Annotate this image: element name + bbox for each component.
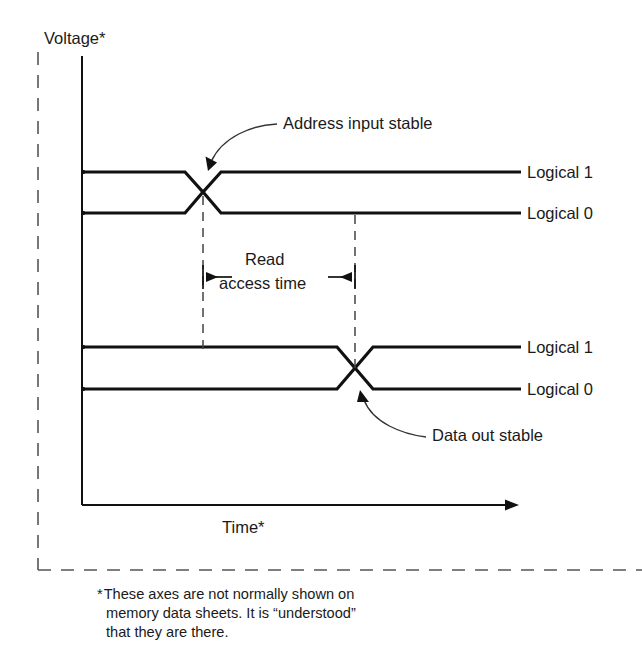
timing-diagram-canvas: Voltage* Time* Logical 1 Logical 0 Logic…	[0, 0, 642, 649]
data-out-high-trace	[82, 347, 521, 368]
timing-diagram-figure: Voltage* Time* Logical 1 Logical 0 Logic…	[0, 0, 642, 649]
data-out-logical-1-label: Logical 1	[527, 338, 593, 356]
read-access-time-label-line1: Read	[245, 250, 284, 268]
address-input-high-trace	[82, 172, 521, 192]
footnote-line-2: memory data sheets. It is “understood”	[106, 605, 356, 621]
data-out-stable-leader-line	[364, 400, 426, 437]
waveform-address-input	[82, 170, 521, 215]
footnote-line-1: *These axes are not normally shown on	[97, 586, 354, 602]
footnote-line-1-text: These axes are not normally shown on	[104, 586, 355, 602]
address-input-logical-0-label: Logical 0	[527, 204, 593, 222]
dimension-left-arrow-head	[206, 272, 218, 282]
address-input-stable-label: Address input stable	[283, 114, 433, 132]
y-axis-label: Voltage*	[44, 29, 106, 47]
data-out-low-trace	[82, 368, 521, 389]
data-out-logical-0-label: Logical 0	[527, 380, 593, 398]
footnote-block: *These axes are not normally shown on me…	[97, 586, 356, 640]
x-axis-arrow-head	[505, 500, 519, 511]
data-out-stable-label: Data out stable	[432, 426, 543, 444]
waveform-data-out	[82, 345, 521, 391]
address-input-stable-arrow-head	[206, 157, 218, 172]
footnote-line-3: that they are there.	[106, 624, 229, 640]
address-input-low-trace	[82, 192, 521, 213]
footnote-marker: *	[97, 586, 103, 602]
x-axis-label: Time*	[222, 518, 265, 536]
address-input-stable-callout	[206, 124, 278, 171]
dimension-right-arrow-head	[340, 272, 352, 282]
address-input-logical-1-label: Logical 1	[527, 163, 593, 181]
data-out-stable-arrow-head	[357, 390, 369, 402]
data-out-stable-callout	[357, 390, 426, 437]
address-input-stable-leader-line	[211, 124, 277, 162]
read-access-time-label-line2: access time	[219, 274, 306, 292]
